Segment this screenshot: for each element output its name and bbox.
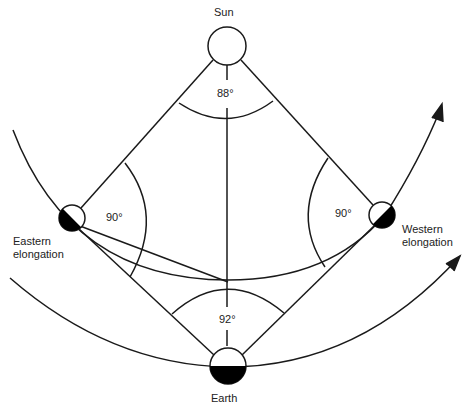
venus-eastern-icon xyxy=(59,205,85,231)
sun-to-eastern-line xyxy=(81,60,213,208)
venus-western-icon xyxy=(369,202,395,228)
earth-label: Earth xyxy=(211,392,237,405)
sun-angle-arc xyxy=(179,101,273,119)
western-angle-label: 90° xyxy=(335,207,352,219)
earth-to-western-line xyxy=(242,224,376,355)
eastern-to-earth-secondary xyxy=(80,226,228,282)
eastern-angle-arc xyxy=(125,163,146,277)
sun-icon xyxy=(208,27,246,65)
western-label-line1: Western xyxy=(402,223,453,236)
eastern-label-line1: Eastern xyxy=(13,235,64,248)
diagram-canvas xyxy=(0,0,472,413)
sun-label: Sun xyxy=(214,6,234,19)
western-angle-arc xyxy=(308,158,328,267)
sun-to-western-line xyxy=(241,60,373,205)
venus-orbit-arrow xyxy=(432,104,443,122)
eastern-label-line2: elongation xyxy=(13,248,64,261)
eastern-elongation-label: Eastern elongation xyxy=(13,235,64,261)
earth-angle-arc xyxy=(172,289,284,314)
earth-icon xyxy=(210,348,246,384)
eastern-angle-label: 90° xyxy=(106,211,123,223)
earth-angle-label: 92° xyxy=(219,313,236,325)
western-label-line2: elongation xyxy=(402,236,453,249)
sun-angle-label: 88° xyxy=(217,87,234,99)
western-elongation-label: Western elongation xyxy=(402,223,453,249)
